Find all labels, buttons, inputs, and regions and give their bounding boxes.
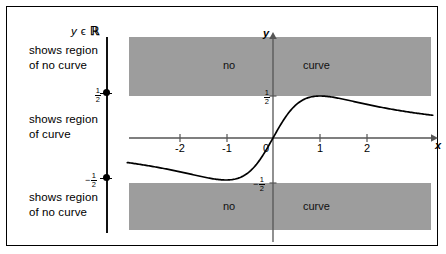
number-line-label-half: 1 2 [77,87,101,104]
fraction-denominator: 2 [95,96,101,104]
y-axis-label: y [263,27,269,39]
fraction-denominator: 2 [259,185,265,193]
fraction-denominator: 2 [91,181,97,189]
y-in-reals-label: y ϵ ℝ [71,24,100,38]
y-tick-label-neg-half: − 1 2 [245,176,265,193]
x-tick-label-zero: 0 [255,142,277,154]
x-tick-label-neg2: -2 [169,142,191,154]
vertical-number-line [106,37,108,233]
fraction-denominator: 2 [264,98,270,106]
minus-sign: − [85,176,90,185]
minus-sign: − [253,179,258,189]
fraction-one-half: 1 2 [95,87,101,104]
number-line-tick-lower [100,178,112,179]
number-line-label-neg-half: − 1 2 [73,172,97,189]
y-tick-label-half: 1 2 [250,89,270,106]
x-tick-label-1: 1 [309,142,331,154]
diagram-frame: no curve no curve [6,6,438,246]
annotation-bottom: shows region of no curve [29,190,98,220]
x-axis [129,134,438,142]
fraction-one-half-negative: 1 2 [91,172,97,189]
diagram-root: no curve no curve [0,0,446,254]
x-tick-label-neg1: -1 [216,142,238,154]
x-axis-label: x [435,139,441,151]
annotation-middle: shows region of curve [29,112,98,142]
annotation-top: shows region of no curve [29,43,98,73]
fraction-one-half-negative: 1 2 [259,176,265,193]
fraction-one-half: 1 2 [264,89,270,106]
x-tick-label-2: 2 [356,142,378,154]
number-line-tick-upper [100,93,112,94]
